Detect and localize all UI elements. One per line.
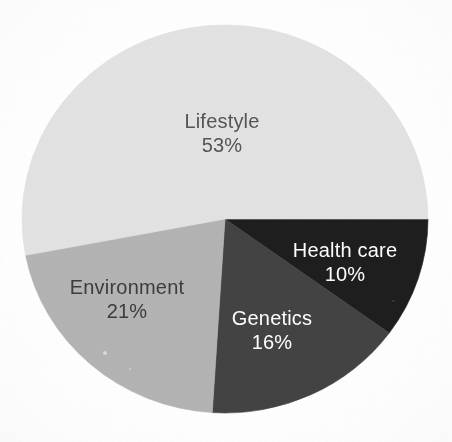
pie-slices-group — [22, 25, 428, 413]
pie-label-name: Genetics — [232, 307, 313, 329]
pie-label-name: Environment — [70, 276, 185, 298]
pie-label-value: 10% — [325, 263, 366, 285]
pie-label-value: 21% — [107, 300, 148, 322]
pie-label-name: Health care — [293, 239, 397, 261]
pie-chart-svg: Health care10%Genetics16%Environment21%L… — [0, 0, 452, 442]
pie-label-value: 53% — [202, 134, 243, 156]
pie-chart-figure: Health care10%Genetics16%Environment21%L… — [0, 0, 452, 442]
pie-label-value: 16% — [252, 331, 293, 353]
pie-label-name: Lifestyle — [184, 110, 259, 132]
